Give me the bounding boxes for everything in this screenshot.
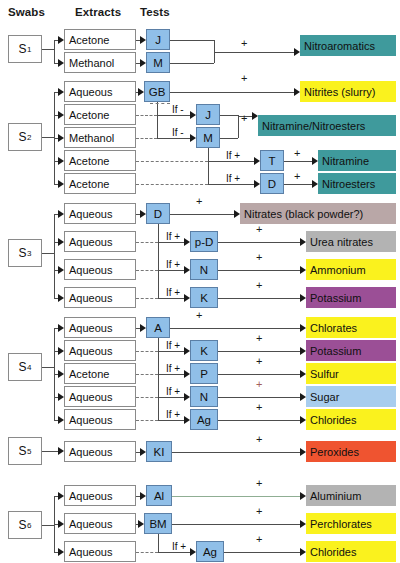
- extract-box[interactable]: Aqueous: [64, 513, 136, 534]
- extract-box[interactable]: Aqueous: [64, 386, 136, 407]
- test-box[interactable]: KI: [146, 441, 172, 462]
- test-box[interactable]: Ag: [196, 541, 224, 562]
- extract-box[interactable]: Aqueous: [64, 317, 136, 338]
- positive-indicator: +: [256, 280, 262, 291]
- test-box[interactable]: GB: [144, 81, 170, 102]
- result-box[interactable]: Chlorides: [306, 409, 396, 430]
- connector-line: [218, 270, 300, 271]
- test-box[interactable]: A: [146, 317, 170, 338]
- swab-label: S: [19, 518, 27, 532]
- connector-line: [54, 214, 55, 298]
- connector-line: [42, 49, 54, 50]
- test-box[interactable]: D: [260, 173, 284, 194]
- result-box[interactable]: Urea nitrates: [306, 231, 396, 252]
- swab-label: S: [19, 360, 27, 374]
- column-header-swabs: Swabs: [8, 6, 45, 18]
- result-box[interactable]: Ammonium: [306, 259, 396, 280]
- result-box[interactable]: Potassium: [306, 340, 396, 361]
- extract-box[interactable]: Aqueous: [64, 409, 136, 430]
- result-box[interactable]: Nitroaromatics: [300, 35, 396, 56]
- connector-line: [172, 524, 300, 525]
- extract-box[interactable]: Aqueous: [64, 441, 136, 462]
- result-box[interactable]: Nitramine: [318, 150, 396, 171]
- connector-line: [136, 242, 158, 243]
- swab-box-s2[interactable]: S2: [8, 123, 42, 151]
- extract-box[interactable]: Aqueous: [64, 203, 136, 224]
- test-box[interactable]: Ag: [190, 409, 218, 430]
- positive-indicator: +: [196, 310, 202, 321]
- test-box[interactable]: K: [190, 287, 218, 308]
- swab-box-s5[interactable]: S5: [8, 437, 42, 465]
- extract-box[interactable]: Methanol: [64, 52, 136, 73]
- extract-box[interactable]: Aqueous: [64, 340, 136, 361]
- result-box[interactable]: Sugar: [306, 386, 396, 407]
- test-box[interactable]: M: [196, 127, 220, 148]
- condition-label: If +: [226, 151, 240, 161]
- swab-label: S: [19, 130, 27, 144]
- test-box[interactable]: P: [190, 363, 218, 384]
- result-box[interactable]: Sulfur: [306, 363, 396, 384]
- connector-line: [136, 351, 158, 352]
- positive-indicator: +: [256, 434, 262, 445]
- extract-box[interactable]: Aqueous: [64, 231, 136, 252]
- test-box[interactable]: J: [146, 29, 170, 50]
- test-box[interactable]: BM: [144, 513, 172, 534]
- condition-label: If -: [172, 128, 184, 138]
- connector-line: [42, 137, 54, 138]
- swab-box-s1[interactable]: S1: [8, 35, 42, 63]
- extract-box[interactable]: Aqueous: [64, 259, 136, 280]
- connector-line: [136, 298, 158, 299]
- result-box[interactable]: Perchlorates: [306, 513, 396, 534]
- test-box[interactable]: M: [146, 52, 170, 73]
- swab-box-s3[interactable]: S3: [8, 239, 42, 267]
- connector-line: [42, 367, 54, 368]
- result-box[interactable]: Peroxides: [306, 441, 396, 462]
- connector-line: [150, 103, 170, 104]
- swab-box-s6[interactable]: S6: [8, 511, 42, 539]
- extract-box[interactable]: Acetone: [64, 150, 136, 171]
- result-box[interactable]: Chlorates: [306, 317, 396, 338]
- test-box[interactable]: N: [190, 259, 218, 280]
- connector-line: [284, 184, 312, 185]
- connector-line: [214, 52, 294, 53]
- result-box[interactable]: Nitrites (slurry): [300, 81, 396, 102]
- swab-box-s4[interactable]: S4: [8, 353, 42, 381]
- connector-line: [136, 270, 158, 271]
- positive-indicator: +: [256, 534, 262, 545]
- extract-box[interactable]: Aqueous: [64, 541, 136, 562]
- swab-index: 2: [27, 133, 32, 142]
- connector-line: [218, 298, 300, 299]
- test-box[interactable]: Al: [146, 485, 172, 506]
- test-box[interactable]: p-D: [190, 231, 218, 252]
- result-box[interactable]: Nitroesters: [318, 173, 396, 194]
- test-box[interactable]: J: [196, 104, 220, 125]
- result-box[interactable]: Potassium: [306, 287, 396, 308]
- extract-box[interactable]: Acetone: [64, 104, 136, 125]
- extract-box[interactable]: Methanol: [64, 127, 136, 148]
- result-box[interactable]: Aluminium: [306, 485, 396, 506]
- extract-box[interactable]: Acetone: [64, 173, 136, 194]
- connector-line: [208, 148, 209, 184]
- swab-index: 4: [27, 363, 32, 372]
- test-box[interactable]: T: [260, 150, 284, 171]
- condition-label: If +: [226, 174, 240, 184]
- result-box[interactable]: Chlorides: [306, 541, 396, 562]
- result-box[interactable]: Nitrates (black powder?): [240, 203, 396, 224]
- extract-box[interactable]: Aqueous: [64, 485, 136, 506]
- connector-line: [158, 534, 159, 552]
- column-header-extracts: Extracts: [75, 6, 121, 18]
- condition-label: If +: [166, 410, 180, 420]
- extract-box[interactable]: Acetone: [64, 363, 136, 384]
- condition-label: If +: [166, 232, 180, 242]
- connector-line: [136, 161, 208, 162]
- result-box[interactable]: Nitramine/Nitroesters: [258, 115, 396, 136]
- test-box[interactable]: K: [190, 340, 218, 361]
- test-box[interactable]: D: [146, 203, 170, 224]
- extract-box[interactable]: Aqueous: [64, 81, 136, 102]
- test-box[interactable]: N: [190, 386, 218, 407]
- extract-box[interactable]: Aqueous: [64, 287, 136, 308]
- extract-box[interactable]: Acetone: [64, 29, 136, 50]
- positive-indicator: +: [256, 478, 262, 489]
- positive-indicator: +: [256, 379, 262, 390]
- positive-indicator: +: [241, 73, 247, 84]
